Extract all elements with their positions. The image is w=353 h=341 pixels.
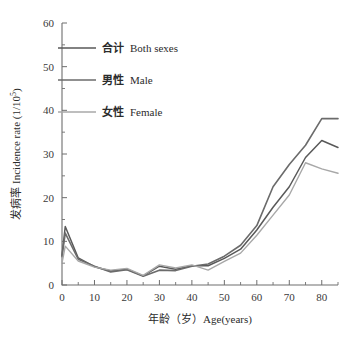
y-tick-label: 40: [43, 104, 55, 116]
axis-tick-labels: 010203040506001020304050607080: [43, 17, 328, 303]
x-tick-label: 30: [154, 291, 166, 303]
chart-canvas: 010203040506001020304050607080 合计Both se…: [0, 0, 353, 341]
y-tick-label: 60: [43, 17, 55, 29]
incidence-rate-line-chart: 010203040506001020304050607080 合计Both se…: [0, 0, 353, 341]
chart-legend: 合计Both sexes男性Male女性Female: [58, 41, 178, 118]
data-series: [62, 119, 338, 277]
x-tick-label: 60: [251, 291, 263, 303]
y-tick-label: 20: [43, 192, 55, 204]
y-axis-title: 发病率 Incidence rate (1/105): [9, 88, 23, 220]
series-line-2: [62, 119, 338, 277]
axis-frame: [62, 23, 338, 285]
legend-label-2: 男性Male: [102, 73, 153, 86]
x-axis-title: 年龄（岁）Age(years): [148, 312, 252, 326]
series-line-1: [62, 140, 338, 275]
y-tick-label: 0: [49, 279, 55, 291]
legend-label-3: 女性Female: [102, 105, 162, 118]
legend-label-1: 合计Both sexes: [102, 41, 178, 54]
x-tick-label: 70: [284, 291, 296, 303]
x-tick-label: 10: [89, 291, 101, 303]
series-line-3: [62, 163, 338, 276]
x-tick-label: 40: [186, 291, 198, 303]
axis-ticks: [62, 23, 338, 285]
y-tick-label: 50: [43, 61, 55, 73]
y-tick-label: 10: [43, 235, 55, 247]
x-tick-label: 0: [59, 291, 65, 303]
x-tick-label: 50: [219, 291, 231, 303]
x-tick-label: 20: [121, 291, 133, 303]
x-tick-label: 80: [316, 291, 328, 303]
y-tick-label: 30: [43, 148, 55, 160]
axes: [62, 23, 338, 285]
